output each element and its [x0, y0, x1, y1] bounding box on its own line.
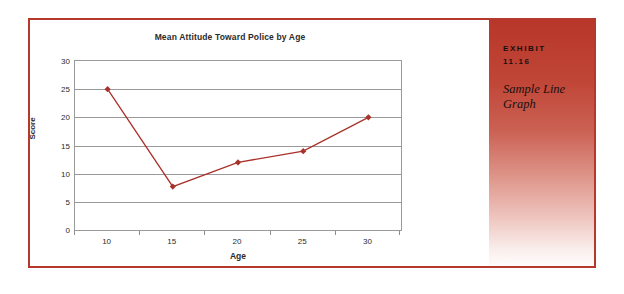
exhibit-panel-gradient: EXHIBIT 11.16 Sample Line Graph [489, 20, 594, 266]
data-point-marker [300, 148, 306, 154]
x-axis-tick-mark [74, 231, 75, 235]
x-axis-tick-mark [399, 231, 400, 235]
x-axis-tick-marks [74, 231, 402, 236]
x-axis-tick-mark [139, 231, 140, 235]
exhibit-figure-frame: Mean Attitude Toward Police by Age Score… [28, 18, 596, 268]
x-axis-tick-label: 30 [347, 237, 387, 246]
y-axis-tick-label: 25 [48, 85, 70, 94]
x-axis-tick-labels: 1015202530 [74, 237, 402, 249]
x-axis-title: Age [74, 251, 402, 261]
exhibit-caption: Sample Line Graph [503, 82, 585, 112]
y-axis-tick-label: 10 [48, 169, 70, 178]
x-axis-tick-label: 25 [282, 237, 322, 246]
y-axis-tick-label: 15 [48, 141, 70, 150]
x-axis-tick-label: 20 [217, 237, 257, 246]
chart-title: Mean Attitude Toward Police by Age [30, 32, 430, 42]
line-chart: Mean Attitude Toward Police by Age Score… [30, 20, 489, 266]
series-line [108, 89, 369, 186]
y-axis-tick-label: 5 [48, 197, 70, 206]
data-point-marker [365, 114, 371, 120]
x-axis-tick-mark [335, 231, 336, 235]
data-series-attitude-score [75, 61, 401, 230]
y-axis-title: Score [28, 117, 37, 139]
x-axis-tick-mark [270, 231, 271, 235]
x-axis-tick-mark [204, 231, 205, 235]
exhibit-label-panel: EXHIBIT 11.16 Sample Line Graph [489, 20, 594, 266]
y-axis-tick-label: 30 [48, 57, 70, 66]
y-axis-tick-label: 20 [48, 113, 70, 122]
exhibit-kicker-label: EXHIBIT [503, 42, 546, 55]
series-markers [105, 86, 372, 190]
data-point-marker [235, 159, 241, 165]
x-axis-tick-label: 10 [87, 237, 127, 246]
x-axis-tick-label: 15 [152, 237, 192, 246]
exhibit-number: 11.16 [503, 55, 531, 68]
plot-area [74, 60, 402, 231]
y-axis-tick-labels: 051015202530 [46, 60, 70, 231]
y-axis-tick-label: 0 [48, 226, 70, 235]
